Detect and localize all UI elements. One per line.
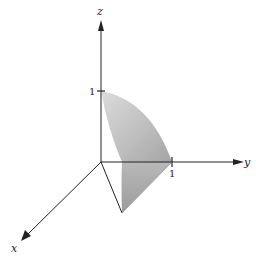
x-arrow-icon bbox=[21, 230, 31, 241]
x-axis-label: x bbox=[11, 242, 18, 255]
diagram-canvas: z 1 y 1 x bbox=[0, 0, 256, 262]
z-axis bbox=[97, 20, 105, 162]
z-axis-label: z bbox=[96, 5, 103, 18]
z-tick-label: 1 bbox=[89, 86, 95, 97]
y-arrow-icon bbox=[233, 159, 244, 165]
z-arrow-icon bbox=[98, 20, 104, 31]
y-tick-label: 1 bbox=[169, 168, 175, 179]
y-axis-label: y bbox=[243, 156, 251, 169]
surface-patch bbox=[101, 91, 172, 213]
x-axis bbox=[21, 162, 101, 241]
